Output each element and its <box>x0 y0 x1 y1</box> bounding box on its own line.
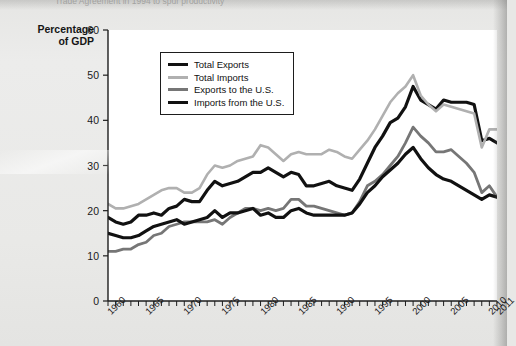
axis-canvas <box>86 22 507 322</box>
y-tick-label: 20 <box>73 205 99 217</box>
legend-item: Imports from the U.S. <box>168 97 284 109</box>
y-tick-label: 60 <box>73 24 99 36</box>
legend-item: Total Exports <box>168 59 284 71</box>
y-tick-label: 40 <box>73 114 99 126</box>
legend-swatch <box>168 76 188 79</box>
legend-label: Exports to the U.S. <box>194 84 274 95</box>
legend-label: Total Imports <box>194 72 248 83</box>
legend-swatch <box>168 101 188 104</box>
legend-swatch <box>168 88 188 91</box>
legend-item: Exports to the U.S. <box>168 84 284 96</box>
y-tick-label: 50 <box>73 69 99 81</box>
legend-item: Total Imports <box>168 72 284 84</box>
legend-swatch <box>168 63 188 66</box>
top-shadow <box>0 0 507 10</box>
y-tick-label: 30 <box>73 160 99 172</box>
legend-label: Total Exports <box>194 59 249 70</box>
y-tick-label: 0 <box>73 295 99 307</box>
y-tick-label: 10 <box>73 250 99 262</box>
legend-label: Imports from the U.S. <box>194 97 284 108</box>
legend: Total ExportsTotal ImportsExports to the… <box>160 52 294 115</box>
